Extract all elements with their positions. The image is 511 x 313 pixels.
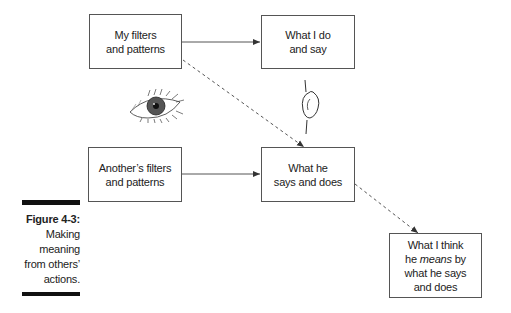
box-text-line: and patterns	[106, 42, 165, 56]
dashed-arrow-what-he-says-to-what-i-think	[355, 184, 418, 233]
dashed-arrow-my-filters-to-what-he-says	[183, 60, 304, 147]
emphasis-means: means	[420, 253, 452, 265]
box-what-i-think-he-means: What I think he means by what he says an…	[389, 233, 482, 298]
box-text-line: What I think	[405, 238, 467, 252]
box-my-filters-and-patterns: My filters and patterns	[89, 14, 182, 69]
box-text-line: What he	[274, 161, 342, 175]
box-what-i-do-and-say: What I do and say	[261, 15, 355, 69]
eye-icon	[130, 89, 184, 123]
caption-top-rule	[22, 200, 80, 205]
ear-icon	[302, 80, 319, 134]
box-text-line: Another’s filters	[99, 161, 172, 175]
caption-line: from others’	[0, 257, 80, 272]
caption-bottom-rule	[22, 292, 80, 296]
box-text-line: and patterns	[99, 175, 172, 189]
text-fragment: he	[405, 253, 420, 265]
figure-caption: Figure 4-3: Making meaning from others’ …	[0, 212, 80, 287]
box-text-line: what he says	[405, 266, 467, 280]
box-another-filters-and-patterns: Another’s filters and patterns	[88, 147, 182, 202]
box-text-line: What I do	[285, 28, 330, 42]
box-text-line-emphasis: he means by	[405, 252, 467, 266]
figure-label: Figure 4-3:	[0, 212, 80, 227]
caption-line: Making	[0, 227, 80, 242]
box-text-line: My filters	[106, 28, 165, 42]
box-text-line: and say	[285, 42, 330, 56]
box-text-line: says and does	[274, 175, 342, 189]
text-fragment: by	[452, 253, 466, 265]
box-text-line: and does	[405, 280, 467, 294]
caption-line: meaning	[0, 242, 80, 257]
box-what-he-says-and-does: What he says and does	[261, 147, 355, 202]
caption-line: actions.	[0, 272, 80, 287]
